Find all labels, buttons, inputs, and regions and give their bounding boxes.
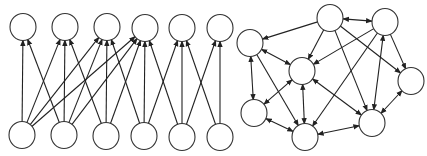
right-edge-n5-n8 bbox=[381, 91, 402, 114]
left-edge-b1-t1 bbox=[22, 40, 23, 122]
network-diagram bbox=[0, 0, 427, 156]
left-edge-b1-t4 bbox=[32, 37, 135, 127]
left-node-b6 bbox=[207, 124, 233, 151]
left-node-t1 bbox=[10, 14, 36, 41]
left-node-t5 bbox=[169, 15, 195, 42]
right-node-n5 bbox=[398, 68, 424, 95]
right-edge-n2-n1 bbox=[262, 22, 317, 39]
left-node-t4 bbox=[132, 15, 158, 42]
left-node-b5 bbox=[169, 124, 195, 151]
right-edge-n4-n6 bbox=[264, 80, 292, 105]
right-edge-n1-n6 bbox=[251, 56, 254, 100]
right-edge-n3-n4 bbox=[313, 29, 374, 65]
left-node-b4 bbox=[131, 123, 157, 150]
left-node-t6 bbox=[207, 15, 233, 42]
left-edge-b2-t2 bbox=[64, 40, 65, 122]
right-edge-n4-n8 bbox=[312, 79, 361, 115]
right-edge-n6-n7 bbox=[266, 119, 293, 132]
left-node-t2 bbox=[52, 14, 78, 41]
right-node-n2 bbox=[317, 5, 343, 32]
right-edge-n2-n4 bbox=[308, 30, 324, 60]
left-edge-b2-t4 bbox=[72, 38, 137, 124]
right-edge-n2-n3 bbox=[343, 19, 372, 21]
right-edge-n3-n8 bbox=[374, 35, 384, 110]
right-node-n3 bbox=[372, 9, 398, 36]
right-edge-n1-n4 bbox=[261, 49, 290, 65]
right-node-n6 bbox=[241, 100, 267, 127]
right-graph-nodes bbox=[237, 5, 424, 151]
right-edge-n7-n8 bbox=[318, 126, 360, 135]
left-edge-b3-t3 bbox=[106, 40, 107, 123]
left-node-b3 bbox=[93, 123, 119, 150]
recurrent-network bbox=[237, 5, 424, 151]
right-edge-n3-n5 bbox=[390, 34, 406, 69]
left-graph-edges bbox=[22, 37, 220, 127]
right-node-n8 bbox=[359, 110, 385, 137]
right-edge-n4-n7 bbox=[303, 84, 305, 124]
left-node-b1 bbox=[9, 122, 35, 149]
right-node-n7 bbox=[292, 124, 318, 151]
left-node-b2 bbox=[51, 122, 77, 149]
left-edge-b4-t4 bbox=[144, 41, 145, 123]
right-node-n4 bbox=[289, 58, 315, 85]
right-node-n1 bbox=[237, 30, 263, 57]
left-node-t3 bbox=[94, 14, 120, 41]
layered-feedforward-network bbox=[9, 14, 233, 151]
